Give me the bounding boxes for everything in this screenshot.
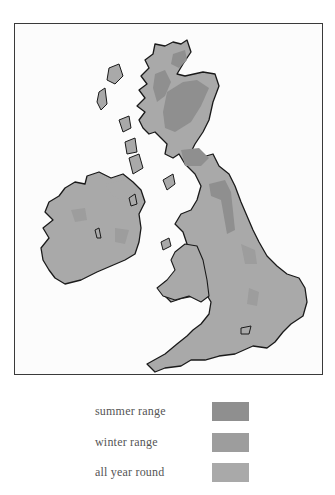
legend-label: winter range [95, 435, 158, 450]
legend-label: summer range [95, 404, 166, 419]
british-isles-map [15, 24, 321, 373]
winter-range-swatch [212, 433, 249, 452]
legend-item-summer-range: summer range [0, 402, 335, 422]
legend-item-all-year-round: all year round [0, 463, 335, 483]
legend-label: all year round [95, 465, 164, 480]
map-frame [14, 23, 323, 375]
all-year-round-swatch [212, 463, 249, 482]
legend-item-winter-range: winter range [0, 433, 335, 453]
ireland [41, 172, 145, 284]
summer-range-swatch [212, 402, 249, 421]
